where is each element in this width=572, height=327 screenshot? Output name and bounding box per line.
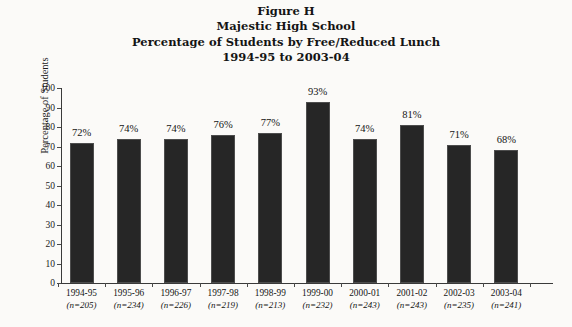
x-category-label: 1997-98(n=219) [196,288,250,311]
x-category-sample-size: (n=205) [55,300,109,312]
y-tick-label: 20 [46,239,56,249]
x-category-label: 1998-99(n=213) [243,288,297,311]
x-category-sample-size: (n=243) [338,300,392,312]
x-tick-mark [152,283,153,287]
bar-value-label: 72% [58,127,106,138]
x-tick-mark [105,283,106,287]
y-tick-label: 100 [41,83,55,93]
x-category-label: 1999-00(n=232) [291,288,345,311]
x-category-label: 1994-95(n=205) [55,288,109,311]
x-category-year: 2001-02 [385,288,439,300]
x-tick-mark [58,283,59,287]
x-category-sample-size: (n=243) [385,300,439,312]
x-category-label: 2003-04(n=241) [479,288,533,311]
y-axis-line [61,88,62,283]
title-line-years: 1994-95 to 2003-04 [0,50,572,65]
x-category-label: 1995-96(n=234) [102,288,156,311]
bar-1999-00 [306,102,330,283]
y-tick-label: 0 [50,278,55,288]
title-line-figure: Figure H [0,4,572,19]
y-tick-label: 80 [46,122,56,132]
bar-value-label: 68% [482,134,530,145]
bar-1994-95 [70,143,94,283]
y-tick-mark [57,244,61,245]
bar-1995-96 [117,139,141,283]
x-category-year: 1998-99 [243,288,297,300]
bar-1997-98 [211,135,235,283]
figure-h-chart: Figure H Majestic High School Percentage… [0,0,572,327]
bar-value-label: 77% [246,117,294,128]
y-tick-mark [57,264,61,265]
bar-value-label: 74% [341,123,389,134]
y-tick-label: 10 [46,259,56,269]
x-category-year: 1994-95 [55,288,109,300]
x-category-year: 1996-97 [149,288,203,300]
title-line-school: Majestic High School [0,19,572,34]
x-category-label: 2002-03(n=235) [432,288,486,311]
x-tick-mark [436,283,437,287]
x-category-sample-size: (n=235) [432,300,486,312]
y-tick-label: 60 [46,161,56,171]
x-category-year: 2002-03 [432,288,486,300]
x-category-year: 1999-00 [291,288,345,300]
x-tick-mark [388,283,389,287]
y-tick-mark [57,88,61,89]
y-tick-label: 90 [46,103,56,113]
x-category-year: 2003-04 [479,288,533,300]
y-tick-label: 40 [46,200,56,210]
y-tick-label: 50 [46,181,56,191]
y-tick-mark [57,205,61,206]
x-category-sample-size: (n=234) [102,300,156,312]
x-axis-line [61,283,553,284]
bar-2002-03 [447,145,471,283]
bar-value-label: 76% [199,119,247,130]
y-tick-mark [57,225,61,226]
x-category-year: 1995-96 [102,288,156,300]
x-category-sample-size: (n=241) [479,300,533,312]
bar-2003-04 [494,150,518,283]
chart-title-block: Figure H Majestic High School Percentage… [0,4,572,66]
x-category-sample-size: (n=232) [291,300,345,312]
y-tick-label: 70 [46,142,56,152]
x-category-sample-size: (n=213) [243,300,297,312]
x-category-label: 2000-01(n=243) [338,288,392,311]
bar-value-label: 74% [105,123,153,134]
x-category-sample-size: (n=219) [196,300,250,312]
plot-area: 1009080706050403020100 72%74%74%76%77%93… [61,88,557,283]
bar-value-label: 74% [152,123,200,134]
x-category-sample-size: (n=226) [149,300,203,312]
x-category-label: 2001-02(n=243) [385,288,439,311]
bar-1998-99 [258,133,282,283]
x-category-year: 1997-98 [196,288,250,300]
bar-1996-97 [164,139,188,283]
x-category-year: 2000-01 [338,288,392,300]
x-category-label: 1996-97(n=226) [149,288,203,311]
bar-value-label: 71% [435,129,483,140]
y-tick-label: 30 [46,220,56,230]
bar-value-label: 93% [294,86,342,97]
bar-2000-01 [353,139,377,283]
bar-2001-02 [400,125,424,283]
y-tick-mark [57,147,61,148]
x-tick-mark [341,283,342,287]
y-tick-mark [57,108,61,109]
title-line-subject: Percentage of Students by Free/Reduced L… [0,35,572,50]
x-tick-mark [247,283,248,287]
x-tick-mark [483,283,484,287]
y-tick-mark [57,166,61,167]
x-tick-mark [530,283,531,287]
x-tick-mark [294,283,295,287]
y-tick-mark [57,186,61,187]
bar-value-label: 81% [388,109,436,120]
x-tick-mark [200,283,201,287]
